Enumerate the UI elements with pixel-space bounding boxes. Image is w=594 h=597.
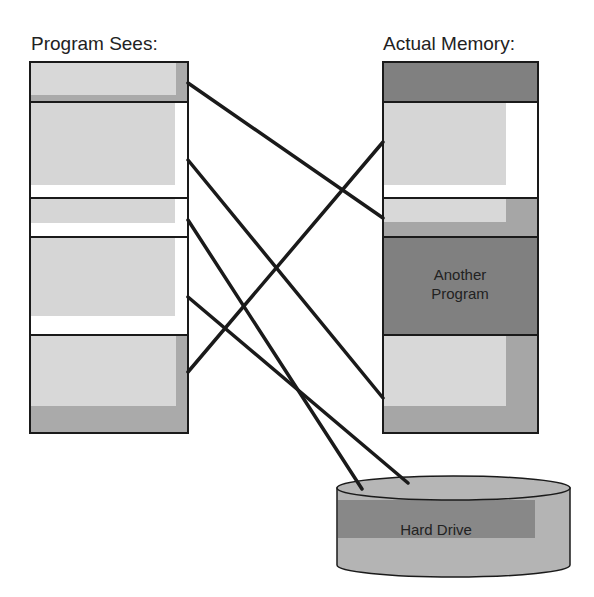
mapping-line-3 [188,220,362,489]
mapping-lines [188,83,408,489]
mapping-line-5 [188,142,383,372]
hard-drive-label: Hard Drive [400,521,472,538]
virtual-page-2 [30,102,188,198]
physical-frame-2 [383,102,538,198]
another-program-label-2: Program [431,285,489,302]
virtual-page-3 [30,198,188,237]
virtual-page-4 [30,237,188,335]
memory-diagram: Another Program Hard Drive [0,0,594,597]
hard-drive: Hard Drive [337,476,570,577]
actual-memory-column: Another Program [383,62,538,433]
physical-frame-1 [383,62,538,102]
physical-frame-3 [383,198,538,237]
virtual-page-5 [30,335,188,433]
physical-frame-5 [383,335,538,433]
another-program-label: Another [434,266,487,283]
another-program-frame: Another Program [383,237,538,335]
virtual-page-1 [30,62,188,102]
program-sees-column [30,62,188,433]
